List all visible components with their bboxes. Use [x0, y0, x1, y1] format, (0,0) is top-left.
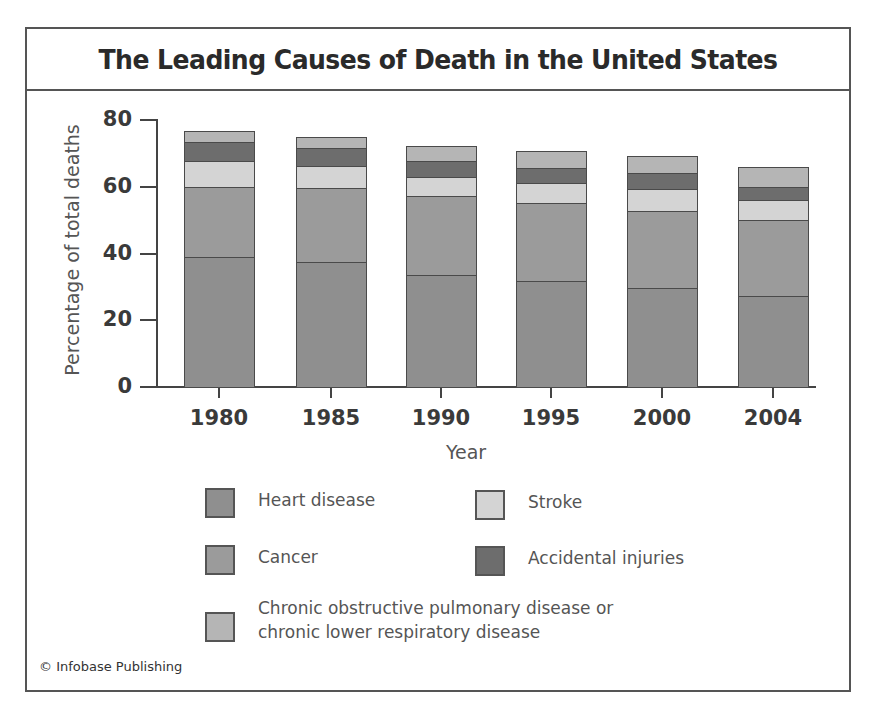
legend-label: Heart disease: [258, 488, 375, 512]
y-tick-label: 0: [92, 376, 132, 397]
y-tick-label: 20: [92, 309, 132, 330]
y-tick: [140, 186, 156, 188]
bar-segment: [516, 168, 587, 184]
x-tick-label: 1995: [506, 408, 596, 429]
y-tick-label: 80: [92, 109, 132, 130]
x-tick: [661, 388, 663, 398]
y-tick: [140, 386, 156, 388]
x-tick: [440, 388, 442, 398]
bar-segment: [627, 288, 698, 388]
y-tick: [140, 319, 156, 321]
bar-segment: [627, 211, 698, 289]
bar-segment: [184, 187, 255, 258]
legend-label: Cancer: [258, 545, 318, 569]
x-tick: [550, 388, 552, 398]
bar-segment: [184, 142, 255, 162]
y-tick: [140, 253, 156, 255]
legend-swatch-accidental-injuries: [475, 546, 505, 576]
bar-segment: [296, 137, 367, 149]
y-tick: [140, 119, 156, 121]
bar-segment: [627, 156, 698, 174]
legend-item-copd: Chronic obstructive pulmonary disease or…: [205, 610, 613, 644]
x-tick-label: 1990: [396, 408, 486, 429]
legend-item-cancer: Cancer: [205, 545, 318, 575]
x-tick: [772, 388, 774, 398]
legend-label: Chronic obstructive pulmonary disease or…: [258, 610, 613, 644]
y-axis: [156, 119, 158, 387]
bar-segment: [516, 183, 587, 204]
legend-label: Accidental injuries: [528, 546, 684, 570]
bar-segment: [738, 220, 809, 296]
legend-item-heart-disease: Heart disease: [205, 488, 375, 518]
x-tick-label: 2004: [728, 408, 818, 429]
bar-segment: [296, 166, 367, 190]
bar-segment: [627, 173, 698, 189]
legend-swatch-heart-disease: [205, 488, 235, 518]
x-tick-label: 2000: [617, 408, 707, 429]
legend-label-line1: Chronic obstructive pulmonary disease or: [258, 596, 613, 620]
bar-segment: [296, 262, 367, 388]
legend-item-accidental-injuries: Accidental injuries: [475, 546, 684, 576]
y-axis-label: Percentage of total deaths: [61, 124, 83, 376]
bar-segment: [738, 167, 809, 188]
x-axis-label: Year: [436, 441, 496, 463]
y-tick-label: 60: [92, 176, 132, 197]
bar-segment: [406, 161, 477, 178]
bar-segment: [406, 196, 477, 276]
legend-label-line2: chronic lower respiratory disease: [258, 620, 613, 644]
x-tick: [330, 388, 332, 398]
legend-swatch-copd: [205, 612, 235, 642]
bar-segment: [516, 151, 587, 168]
bar-segment: [738, 187, 809, 200]
bar-segment: [184, 257, 255, 388]
x-tick-label: 1985: [286, 408, 376, 429]
legend-swatch-cancer: [205, 545, 235, 575]
x-tick-label: 1980: [174, 408, 264, 429]
bar-segment: [738, 200, 809, 222]
legend-swatch-stroke: [475, 490, 505, 520]
bar-segment: [296, 188, 367, 263]
legend-item-stroke: Stroke: [475, 490, 582, 520]
bar-segment: [184, 131, 255, 143]
bar-segment: [184, 161, 255, 188]
bar-segment: [516, 203, 587, 282]
bar-segment: [627, 189, 698, 212]
bar-segment: [406, 275, 477, 388]
bar-segment: [738, 296, 809, 388]
bar-segment: [516, 281, 587, 388]
y-tick-label: 40: [92, 243, 132, 264]
legend-label: Stroke: [528, 490, 582, 514]
x-tick: [218, 388, 220, 398]
bar-segment: [406, 177, 477, 197]
bar-segment: [406, 146, 477, 162]
bar-segment: [296, 148, 367, 167]
copyright-credit: © Infobase Publishing: [39, 659, 182, 674]
